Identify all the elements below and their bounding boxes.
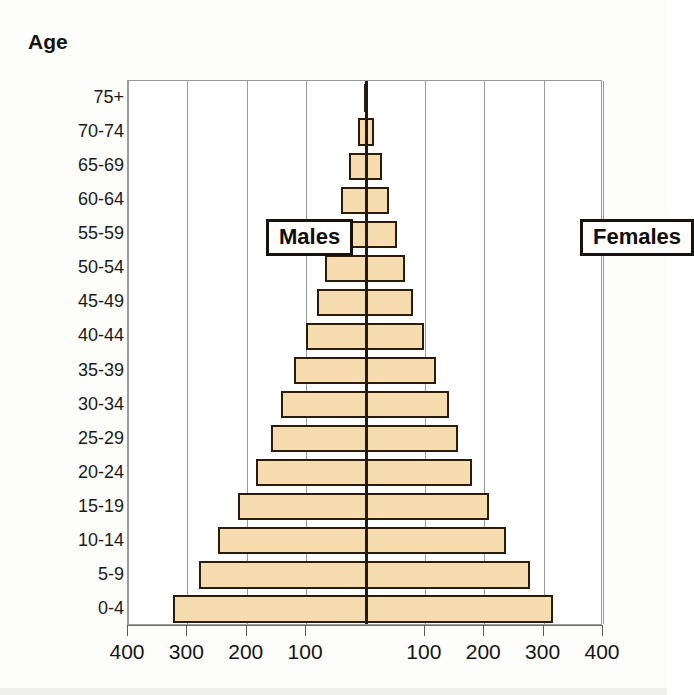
x-tick-label: 200	[228, 640, 263, 664]
x-tick-label: 400	[584, 640, 619, 664]
y-tick-label: 75+	[93, 87, 124, 108]
legend-females: Females	[580, 219, 694, 256]
x-tick-label: 200	[466, 640, 501, 664]
x-axis	[127, 625, 602, 637]
y-tick-label: 65-69	[78, 155, 124, 176]
y-tick-label: 10-14	[78, 529, 124, 550]
y-tick-label: 0-4	[98, 597, 124, 618]
y-tick-label: 50-54	[78, 257, 124, 278]
x-tick-label: 100	[406, 640, 441, 664]
x-tick-label: 100	[288, 640, 323, 664]
x-tick-label: 400	[109, 640, 144, 664]
y-tick-label: 60-64	[78, 189, 124, 210]
y-tick-label: 30-34	[78, 393, 124, 414]
bar-15-19	[238, 493, 489, 520]
x-tick	[543, 625, 544, 636]
x-tick	[127, 625, 128, 636]
x-tick	[602, 625, 603, 636]
y-tick-label: 55-59	[78, 223, 124, 244]
y-tick-label: 15-19	[78, 495, 124, 516]
bar-0-4	[173, 595, 553, 622]
x-tick	[246, 625, 247, 636]
x-axis-line	[127, 625, 602, 626]
x-tick	[186, 625, 187, 636]
y-axis-tick-labels: 75+70-7465-6960-6455-5950-5445-4940-4435…	[40, 80, 124, 625]
y-tick-label: 25-29	[78, 427, 124, 448]
x-tick	[305, 625, 306, 636]
plot-area: Males Females	[127, 80, 602, 625]
gridline	[187, 81, 188, 624]
gridline	[128, 81, 129, 624]
gridline	[603, 81, 604, 624]
y-tick-label: 20-24	[78, 461, 124, 482]
y-tick-label: 45-49	[78, 291, 124, 312]
x-axis-tick-labels: 400300200100100200300400	[127, 640, 602, 680]
page-bottom-edge	[0, 688, 667, 695]
y-tick-label: 5-9	[98, 563, 124, 584]
x-tick-label: 300	[169, 640, 204, 664]
bar-10-14	[218, 527, 506, 554]
x-tick-label: 300	[525, 640, 560, 664]
y-tick-label: 35-39	[78, 359, 124, 380]
page-title: Age	[28, 30, 68, 54]
y-tick-label: 70-74	[78, 121, 124, 142]
x-tick	[424, 625, 425, 636]
center-axis-line	[365, 81, 368, 624]
x-tick	[483, 625, 484, 636]
y-tick-label: 40-44	[78, 325, 124, 346]
gridline	[544, 81, 545, 624]
legend-males: Males	[266, 219, 353, 256]
